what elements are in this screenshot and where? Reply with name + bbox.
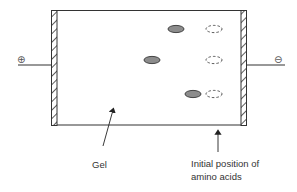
- final-spot-lane-2: [144, 56, 160, 63]
- initial-spot-lane-2: [206, 56, 222, 63]
- anode-plus-icon: ⊕: [17, 54, 25, 65]
- anode-electrode: [52, 11, 58, 126]
- initial-position-label-line-2: amino acids: [191, 171, 242, 182]
- gel-label: Gel: [92, 159, 107, 170]
- initial-spot-lane-1: [206, 25, 222, 32]
- gel-box: [57, 11, 241, 126]
- gel-arrow-icon: [103, 110, 113, 146]
- final-spot-lane-1: [168, 25, 184, 32]
- initial-spot-lane-3: [206, 90, 222, 97]
- cathode-electrode: [241, 11, 247, 126]
- initial-position-label-line-1: Initial position of: [191, 158, 259, 169]
- electrophoresis-diagram: ⊕ ⊖ Gel Initial position of amino acids: [0, 0, 297, 192]
- final-spot-lane-3: [185, 90, 201, 97]
- cathode-minus-icon: ⊖: [274, 54, 282, 65]
